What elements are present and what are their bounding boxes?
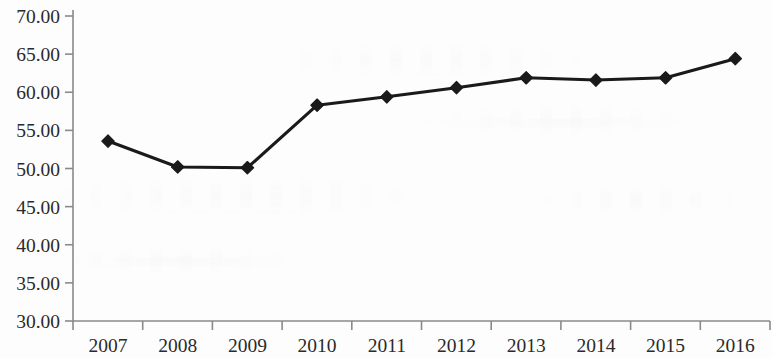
y-axis-tick-label: 40.00 [16, 235, 60, 256]
data-series-group [102, 53, 742, 174]
data-point-marker [729, 53, 741, 65]
x-axis-tick-label: 2013 [507, 335, 546, 356]
x-axis-tick-label: 2016 [716, 335, 755, 356]
chart-plot-area: 30.0035.0040.0045.0050.0055.0060.0065.00… [0, 0, 772, 358]
series-markers [102, 53, 742, 174]
x-axis-tick-label: 2015 [646, 335, 685, 356]
series-line [108, 59, 735, 168]
y-axis-tick-label: 50.00 [16, 159, 60, 180]
data-point-marker [590, 74, 602, 86]
data-point-marker [450, 81, 462, 93]
x-axis-tick-labels: 2007200820092010201120122013201420152016 [89, 335, 756, 356]
x-axis-tick-label: 2012 [437, 335, 476, 356]
data-point-marker [172, 161, 184, 173]
x-axis-tick-label: 2010 [298, 335, 337, 356]
y-axis-tick-label: 65.00 [16, 44, 60, 65]
x-axis-tick-label: 2007 [89, 335, 128, 356]
y-axis-tick-label: 30.00 [16, 311, 60, 332]
x-axis-tick-label: 2011 [368, 335, 406, 356]
y-axis-tick-label: 70.00 [16, 6, 60, 27]
data-point-marker [520, 72, 532, 84]
data-point-marker [102, 135, 114, 147]
y-axis-tick-label: 35.00 [16, 273, 60, 294]
data-point-marker [659, 72, 671, 84]
y-axis-tick-marks [65, 16, 73, 321]
y-axis-tick-labels: 30.0035.0040.0045.0050.0055.0060.0065.00… [16, 6, 60, 332]
y-axis-tick-label: 55.00 [16, 120, 60, 141]
data-point-marker [381, 91, 393, 103]
x-axis: 2007200820092010201120122013201420152016 [73, 321, 770, 356]
line-chart: 30.0035.0040.0045.0050.0055.0060.0065.00… [0, 0, 772, 358]
x-axis-tick-label: 2009 [228, 335, 267, 356]
y-axis: 30.0035.0040.0045.0050.0055.0060.0065.00… [16, 6, 73, 332]
y-axis-tick-label: 60.00 [16, 82, 60, 103]
x-axis-tick-label: 2008 [158, 335, 197, 356]
x-axis-tick-marks [73, 321, 770, 330]
x-axis-tick-label: 2014 [576, 335, 615, 356]
y-axis-tick-label: 45.00 [16, 197, 60, 218]
